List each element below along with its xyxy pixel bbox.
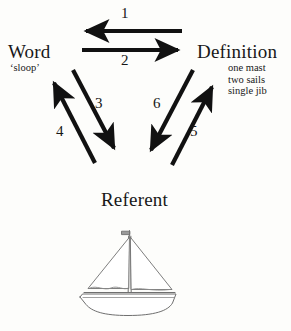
semiotic-triangle-figure: Word ‘sloop’ Definition one mast two sai… [0, 0, 291, 331]
arrow-number-2: 2 [121, 53, 129, 68]
arrow-number-4: 4 [56, 124, 64, 139]
definition-sub-line-2: two sails [228, 74, 267, 86]
definition-sub-line-1: one mast [228, 62, 267, 74]
vertex-label-word: Word [8, 42, 51, 61]
vertex-sublabel-definition: one mast two sails single jib [228, 62, 267, 97]
arrow-number-1: 1 [121, 6, 129, 21]
arrow-number-3: 3 [95, 96, 103, 111]
vertex-label-definition: Definition [197, 42, 277, 61]
definition-sub-line-3: single jib [228, 85, 267, 97]
vertex-sublabel-word: ‘sloop’ [10, 62, 40, 74]
arrow-number-6: 6 [153, 96, 161, 111]
vertex-label-referent: Referent [101, 190, 168, 209]
arrow-number-5: 5 [190, 124, 198, 139]
